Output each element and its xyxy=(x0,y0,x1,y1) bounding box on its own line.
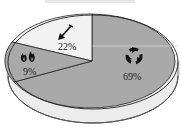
label-recycled: 69% xyxy=(123,71,141,82)
pie-chart: 22% 9% 69% xyxy=(0,0,181,137)
chart-title-fragment xyxy=(45,0,135,3)
label-incinerated: 9% xyxy=(23,66,36,77)
label-landfill: 22% xyxy=(58,41,76,52)
